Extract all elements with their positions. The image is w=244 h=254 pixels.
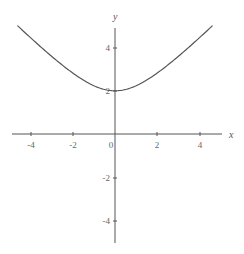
y-tick-label: 4 bbox=[106, 43, 111, 53]
y-tick-label: -2 bbox=[103, 173, 111, 183]
y-axis-label: y bbox=[112, 11, 118, 22]
x-tick-label: 0 bbox=[109, 140, 114, 150]
x-tick-label: -4 bbox=[27, 140, 35, 150]
chart: -4 -2 0 2 4 4 2 -2 -4 x y bbox=[0, 0, 244, 254]
x-axis-label: x bbox=[228, 129, 234, 140]
x-tick-label: 2 bbox=[155, 140, 160, 150]
x-tick-label: 4 bbox=[198, 140, 203, 150]
x-tick-label: -2 bbox=[69, 140, 77, 150]
y-tick-label: -4 bbox=[103, 216, 111, 226]
